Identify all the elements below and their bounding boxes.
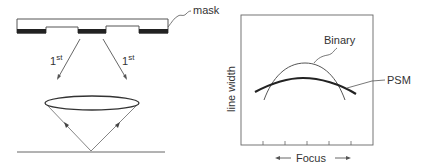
y-axis-label: line width [225,66,237,112]
x-axis-label: Focus [296,152,326,164]
lens [45,96,139,110]
binary-label: Binary [324,34,356,46]
mask [17,19,168,34]
arrowhead-icon [115,122,120,128]
focus-cone [48,106,136,151]
absorber-block [139,29,168,34]
absorber-block [17,29,46,34]
psm-curve [255,78,356,94]
mask-label: mask [193,4,220,16]
binary-curve [264,63,345,100]
order-label-right: 1st [122,53,135,67]
arrow-left-icon [275,156,280,160]
absorber-block [78,29,106,34]
psm-leader-line [347,80,385,88]
diagram-canvas: mask 1st 1st Binary [0,0,423,168]
mask-leader-line [168,11,191,27]
arrow-right-icon [346,156,351,160]
x-ticks [263,141,351,145]
order-label-left: 1st [50,53,63,67]
psm-label: PSM [387,74,411,86]
binary-leader-line [314,48,337,63]
chart: Binary PSM line width Focus [225,15,411,164]
